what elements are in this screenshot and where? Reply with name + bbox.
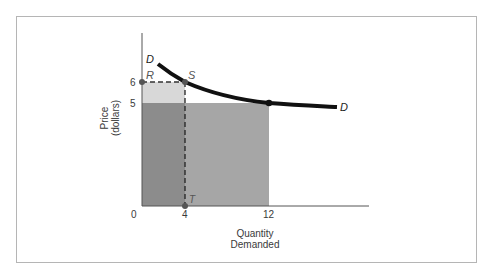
region-mid (185, 103, 269, 206)
point-R (139, 79, 145, 85)
x-tick-12: 12 (263, 209, 275, 220)
label-R: R (146, 69, 154, 81)
x-tick-4: 4 (182, 209, 188, 220)
y-axis-title-1: Price (99, 106, 110, 129)
region-dark (142, 103, 185, 206)
point-curve-12 (266, 100, 273, 107)
x-tick-0: 0 (131, 209, 137, 220)
label-D-end: D (340, 101, 348, 113)
demand-chart: R S T D D 6 5 0 4 12 Quantity Demanded P… (0, 0, 489, 272)
region-light (142, 82, 185, 103)
y-tick-6: 6 (130, 77, 136, 88)
y-axis-title-2: (dollars) (110, 100, 121, 136)
x-axis-title-2: Demanded (231, 239, 280, 250)
x-axis-title-1: Quantity (236, 228, 273, 239)
label-D-start: D (146, 53, 154, 65)
label-S: S (188, 69, 196, 81)
y-tick-5: 5 (130, 98, 136, 109)
label-T: T (189, 194, 196, 205)
